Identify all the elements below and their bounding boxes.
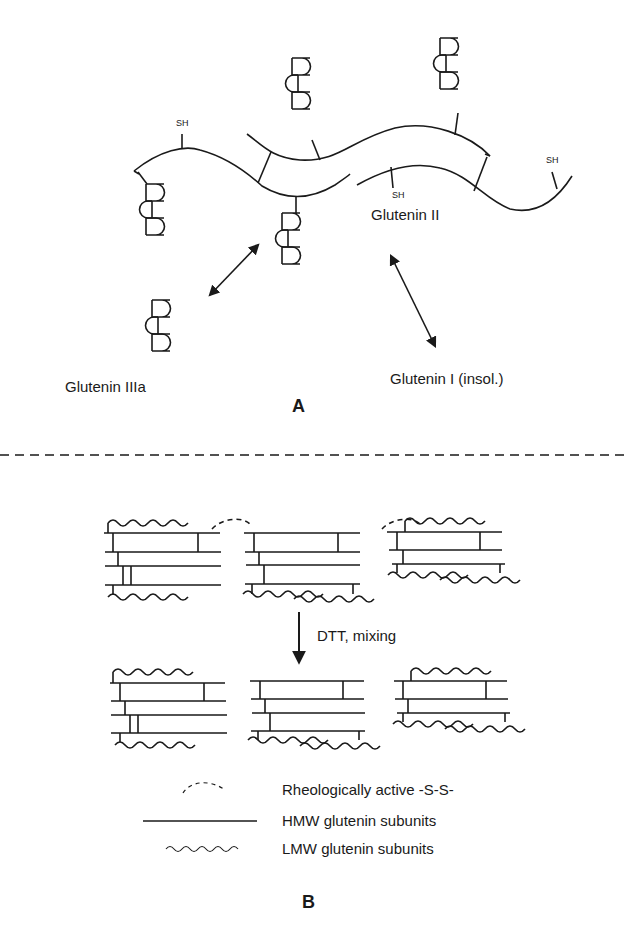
sh-label-left: SH — [176, 118, 189, 128]
glutenin-i-label: Glutenin I (insol.) — [390, 370, 503, 387]
dtt-mixing-label: DTT, mixing — [317, 627, 396, 644]
sh-label-middle: SH — [392, 190, 405, 200]
legend-ss-label: Rheologically active -S-S- — [282, 781, 454, 798]
panel-b-before — [104, 518, 520, 602]
panel-b-label: B — [302, 892, 315, 913]
panel-b-after — [110, 668, 525, 749]
panel-a-label: A — [292, 396, 305, 417]
glutenin-iiia-label: Glutenin IIIa — [65, 378, 146, 395]
legend-hmw-label: HMW glutenin subunits — [282, 812, 436, 829]
sh-label-right: SH — [546, 155, 559, 165]
panel-a-structure — [134, 38, 572, 351]
glutenin-ii-label: Glutenin II — [371, 206, 439, 223]
legend-lmw-label: LMW glutenin subunits — [282, 840, 434, 857]
legend-symbols — [143, 783, 257, 852]
